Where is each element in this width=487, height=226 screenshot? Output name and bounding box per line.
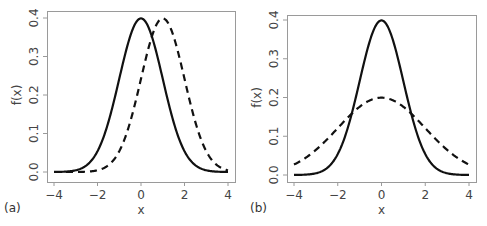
panel-a: 0.0 0.1 0.2 0.3 0.4 f(x) −4 −2 0 2 4 x (… (4, 8, 236, 217)
curve-a-solid (54, 18, 228, 172)
x-tick-label: 4 (465, 188, 473, 202)
y-tick-label: 0.2 (267, 88, 281, 107)
y-tick-label: 0.4 (27, 8, 41, 27)
x-tick-label: 0 (137, 188, 145, 202)
y-tick-label: 0.4 (267, 10, 281, 29)
x-tick-label: −4 (285, 188, 303, 202)
y-tick-label: 0.2 (27, 85, 41, 104)
x-tick-label: 0 (378, 188, 386, 202)
x-axis-label-b: x (378, 203, 385, 217)
panel-label-b: (b) (250, 201, 267, 215)
y-tick-label: 0.1 (267, 127, 281, 146)
x-tick-label: 2 (421, 188, 429, 202)
figure: 0.0 0.1 0.2 0.3 0.4 f(x) −4 −2 0 2 4 x (… (0, 0, 487, 226)
plot-frame-b (288, 16, 477, 183)
curve-b-dashed (294, 98, 469, 165)
x-tick-label: −4 (45, 188, 63, 202)
y-axis-b: 0.0 0.1 0.2 0.3 0.4 f(x) (250, 10, 287, 184)
y-tick-label: 0.3 (267, 49, 281, 68)
y-tick-label: 0.0 (267, 165, 281, 184)
y-tick-label: 0.3 (27, 47, 41, 66)
y-tick-label: 0.1 (27, 124, 41, 143)
panel-label-a: (a) (4, 201, 21, 215)
x-axis-a: −4 −2 0 2 4 x (45, 182, 232, 217)
x-tick-label: 4 (224, 188, 232, 202)
y-axis-label-b: f(x) (250, 87, 264, 108)
plot-frame-a (48, 12, 236, 183)
x-tick-label: −2 (329, 188, 347, 202)
y-tick-label: 0.0 (27, 162, 41, 181)
panel-b: 0.0 0.1 0.2 0.3 0.4 f(x) −4 −2 0 2 4 x (… (250, 10, 477, 217)
y-axis-label-a: f(x) (10, 85, 24, 106)
x-axis-label-a: x (137, 203, 144, 217)
x-axis-b: −4 −2 0 2 4 x (285, 182, 473, 217)
x-tick-label: −2 (89, 188, 107, 202)
curve-a-dashed (54, 18, 228, 172)
x-tick-label: 2 (181, 188, 189, 202)
y-axis-a: 0.0 0.1 0.2 0.3 0.4 f(x) (10, 8, 47, 181)
